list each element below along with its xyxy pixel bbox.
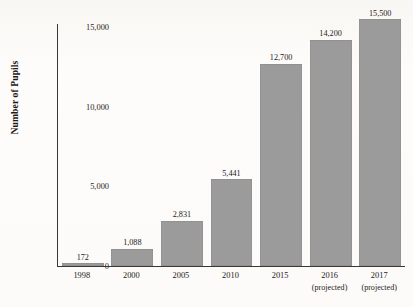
bar-value-label: 2,831: [155, 210, 209, 219]
x-tick-label: 2016(projected): [305, 270, 355, 293]
bar-value-label: 5,441: [205, 169, 259, 178]
bar-series: 1721,0882,8315,44112,70014,20015,500: [58, 14, 405, 266]
bar-rect[interactable]: [161, 221, 203, 266]
bar-value-label: 172: [56, 253, 110, 262]
x-tick-year: 2017: [371, 271, 388, 280]
x-tick-label: 1998: [57, 270, 107, 282]
bar-group: 12,700: [260, 14, 302, 266]
bar-group: 172: [62, 14, 104, 266]
bar-group: 14,200: [310, 14, 352, 266]
bar-group: 2,831: [161, 14, 203, 266]
x-tick-label: 2017(projected): [354, 270, 404, 293]
x-axis-tick-labels: 199820002005201020152016(projected)2017(…: [57, 270, 405, 306]
x-tick-year: 2015: [272, 271, 289, 280]
x-tick-year: 1998: [73, 271, 90, 280]
bar-group: 1,088: [111, 14, 153, 266]
x-tick-note: (projected): [305, 282, 355, 294]
x-tick-label: 2010: [206, 270, 256, 282]
x-tick-year: 2000: [123, 271, 140, 280]
x-tick-year: 2016: [321, 271, 338, 280]
x-tick-note: (projected): [354, 282, 404, 294]
bar-rect[interactable]: [260, 64, 302, 266]
bar-group: 15,500: [359, 14, 401, 266]
y-axis-title: Number of Pupils: [9, 38, 20, 158]
bar-rect[interactable]: [62, 263, 104, 266]
bar-rect[interactable]: [111, 249, 153, 266]
bar-group: 5,441: [211, 14, 253, 266]
bar-value-label: 12,700: [254, 53, 308, 62]
x-tick-label: 2015: [255, 270, 305, 282]
chart-title: Number of Charter Schools, Total Enrollm…: [0, 0, 413, 3]
bar-value-label: 15,500: [353, 9, 407, 18]
x-tick-year: 2010: [222, 271, 239, 280]
chart-page: Number of Charter Schools, Total Enrollm…: [0, 0, 413, 307]
bar-value-label: 1,088: [105, 238, 159, 247]
bar-rect[interactable]: [211, 179, 253, 266]
plot-area: 05,00010,00015,000 1721,0882,8315,44112,…: [57, 14, 405, 267]
bar-rect[interactable]: [310, 40, 352, 266]
bar-rect[interactable]: [359, 19, 401, 266]
x-tick-year: 2005: [173, 271, 190, 280]
bar-value-label: 14,200: [304, 29, 358, 38]
x-tick-label: 2005: [156, 270, 206, 282]
x-tick-label: 2000: [107, 270, 157, 282]
